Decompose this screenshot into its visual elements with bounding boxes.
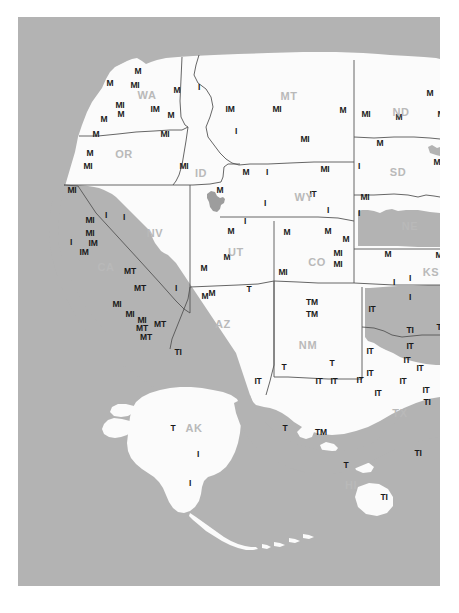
map-marker[interactable]: IT (374, 389, 381, 398)
map-marker[interactable]: I (266, 168, 268, 177)
map-marker[interactable]: IT (254, 377, 261, 386)
map-marker[interactable]: MI (360, 193, 369, 202)
map-marker[interactable]: IM (150, 105, 159, 114)
map-marker[interactable]: IT (403, 356, 410, 365)
map-marker[interactable]: MI (437, 110, 440, 119)
map-marker[interactable]: T (247, 285, 252, 294)
map-marker[interactable]: I (393, 278, 395, 287)
map-marker[interactable]: IM (225, 105, 234, 114)
map-marker[interactable]: MI (83, 162, 92, 171)
map-marker[interactable]: MI (272, 105, 281, 114)
map-marker[interactable]: IT (356, 376, 363, 385)
landmass-group (49, 52, 440, 550)
map-marker[interactable]: MI (179, 162, 188, 171)
map-marker[interactable]: M (217, 186, 224, 195)
map-marker[interactable]: T (330, 359, 335, 368)
state-label-nv: NV (147, 228, 163, 239)
map-marker[interactable]: I (197, 450, 199, 459)
map-marker[interactable]: IT (406, 342, 413, 351)
map-marker[interactable]: IT (366, 347, 373, 356)
map-marker[interactable]: M (135, 67, 142, 76)
map-marker[interactable]: TI (423, 398, 430, 407)
map-marker[interactable]: M (101, 115, 108, 124)
map-marker[interactable]: MI (85, 229, 94, 238)
map-marker[interactable]: MI (278, 268, 287, 277)
map-marker[interactable]: IT (366, 369, 373, 378)
map-marker[interactable]: TI (436, 323, 440, 332)
map-marker[interactable]: TI (414, 449, 421, 458)
map-marker[interactable]: M (385, 250, 392, 259)
map-marker[interactable]: MI (300, 135, 309, 144)
map-marker[interactable]: TM (306, 298, 318, 307)
map-marker[interactable]: M (118, 110, 125, 119)
map-marker[interactable]: MI (361, 110, 370, 119)
map-marker[interactable]: IT (422, 386, 429, 395)
map-marker[interactable]: M (107, 79, 114, 88)
map-marker[interactable]: TM (315, 428, 327, 437)
land-alaska-nw (110, 404, 134, 417)
map-marker[interactable]: M (377, 139, 384, 148)
map-marker[interactable]: M (436, 251, 440, 260)
map-marker[interactable]: IT (368, 305, 375, 314)
map-marker[interactable]: MI (160, 130, 169, 139)
map-marker[interactable]: MI (333, 260, 342, 269)
map-marker[interactable]: TI (380, 493, 387, 502)
map-marker[interactable]: IT (315, 377, 322, 386)
map-marker[interactable]: M (340, 106, 347, 115)
map-marker[interactable]: I (358, 209, 360, 218)
map-marker[interactable]: I (264, 199, 266, 208)
map-marker[interactable]: I (358, 162, 360, 171)
map-marker[interactable]: IT (416, 364, 423, 373)
map-marker[interactable]: M (93, 130, 100, 139)
map-marker[interactable]: MI (112, 300, 121, 309)
map-marker[interactable]: I (70, 238, 72, 247)
map-marker[interactable]: I (123, 213, 125, 222)
map-marker[interactable]: I (409, 274, 411, 283)
state-label-ne: NE (402, 221, 418, 232)
map-marker[interactable]: T (344, 461, 349, 470)
map-marker[interactable]: I (235, 127, 237, 136)
land-aleutian-dot-2 (274, 542, 285, 547)
map-marker[interactable]: MT (134, 284, 146, 293)
map-marker[interactable]: TI (174, 348, 181, 357)
map-marker[interactable]: MI (333, 249, 342, 258)
map-marker[interactable]: IM (88, 239, 97, 248)
map-marker[interactable]: M (228, 227, 235, 236)
map-marker[interactable]: M (209, 289, 216, 298)
map-marker[interactable]: MI (125, 310, 134, 319)
map-marker[interactable]: I (105, 211, 107, 220)
map-marker[interactable]: I (409, 293, 411, 302)
map-marker[interactable]: M (434, 158, 440, 167)
map-marker[interactable]: MI (67, 186, 76, 195)
map-marker[interactable]: M (168, 111, 175, 120)
map-canvas[interactable]: MMMIMMIMIMMMMIMMMIMIIIMIMMMIMMIMIMIMMMIM… (18, 17, 440, 586)
map-marker[interactable]: M (202, 292, 209, 301)
map-marker[interactable]: I (189, 479, 191, 488)
map-marker[interactable]: T (171, 424, 176, 433)
map-marker[interactable]: T (282, 363, 287, 372)
map-marker[interactable]: I (198, 83, 200, 92)
map-marker[interactable]: M (243, 168, 250, 177)
map-marker[interactable]: MI (85, 216, 94, 225)
map-marker[interactable]: M (284, 228, 291, 237)
map-marker[interactable]: IT (330, 377, 337, 386)
map-marker[interactable]: TM (306, 310, 318, 319)
state-label-ut: UT (228, 247, 244, 258)
map-marker[interactable]: I (327, 206, 329, 215)
map-marker[interactable]: T (283, 424, 288, 433)
map-marker[interactable]: M (325, 227, 332, 236)
map-marker[interactable]: M (427, 89, 434, 98)
map-marker[interactable]: M (343, 235, 350, 244)
map-marker[interactable]: IM (79, 248, 88, 257)
map-marker[interactable]: I (244, 217, 246, 226)
map-marker[interactable]: M (174, 86, 181, 95)
map-marker[interactable]: MT (154, 320, 166, 329)
map-marker[interactable]: M (201, 264, 208, 273)
map-marker[interactable]: MT (140, 333, 152, 342)
map-marker[interactable]: MT (124, 267, 136, 276)
map-marker[interactable]: MI (320, 165, 329, 174)
map-marker[interactable]: I (175, 284, 177, 293)
map-marker[interactable]: M (87, 149, 94, 158)
map-marker[interactable]: TI (406, 326, 413, 335)
map-marker[interactable]: IT (399, 377, 406, 386)
